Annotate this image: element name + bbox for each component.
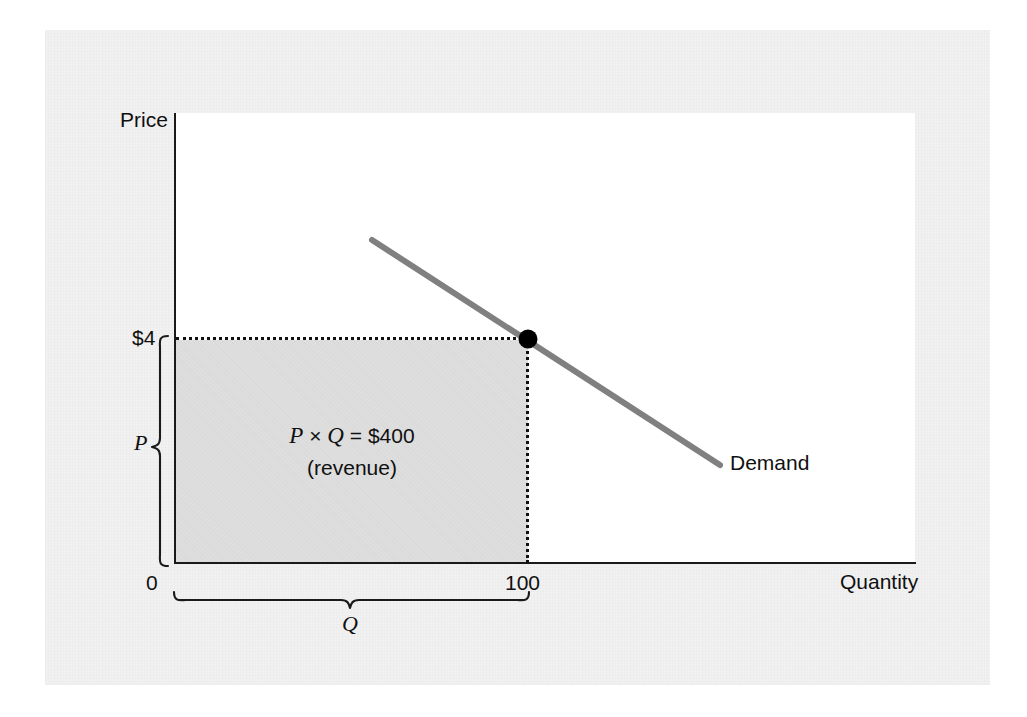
x-axis-label: Quantity xyxy=(840,571,918,592)
formula-equals: = xyxy=(350,424,362,447)
price-brace-label: P xyxy=(134,432,147,454)
price-guide-dotted-line xyxy=(176,337,528,340)
x-axis-line xyxy=(175,562,916,564)
demand-curve-label: Demand xyxy=(730,452,809,473)
formula-q: Q xyxy=(327,423,344,448)
figure-root: Price Quantity $4 0 100 P Q Demand P × Q… xyxy=(0,0,1027,717)
y-tick-label-price: $4 xyxy=(132,327,155,348)
formula-p: P xyxy=(289,423,303,448)
revenue-formula: P × Q = $400 xyxy=(176,420,528,451)
quantity-brace-label: Q xyxy=(342,613,358,635)
formula-value: $400 xyxy=(368,424,415,447)
y-axis-label: Price xyxy=(120,109,168,130)
x-tick-label-hundred: 100 xyxy=(505,572,540,593)
revenue-annotation-block: P × Q = $400 (revenue) xyxy=(176,420,528,482)
x-tick-label-zero: 0 xyxy=(146,572,158,593)
revenue-caption: (revenue) xyxy=(176,454,528,482)
formula-times: × xyxy=(309,424,321,447)
